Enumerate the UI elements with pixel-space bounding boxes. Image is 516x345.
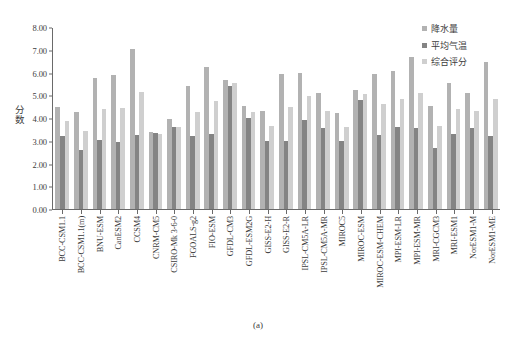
y-tick-mark xyxy=(49,96,52,97)
bar-group[interactable] xyxy=(295,28,314,209)
bar-group[interactable] xyxy=(53,28,72,209)
bar-group[interactable] xyxy=(332,28,351,209)
x-tick-mark xyxy=(398,210,399,214)
x-label-cell: CNRM-CM5 xyxy=(146,216,165,312)
x-label-cell: MIROC5 xyxy=(333,216,352,312)
x-label-cell: CCSM4 xyxy=(128,216,147,312)
bar-group[interactable] xyxy=(239,28,258,209)
bar-group[interactable] xyxy=(90,28,109,209)
x-tick-mark xyxy=(361,210,362,214)
bar[interactable] xyxy=(158,134,163,209)
bar-group[interactable] xyxy=(72,28,91,209)
x-tick-label: IPSL-CM5A-MR xyxy=(319,216,328,273)
legend-item[interactable]: 平均气温 xyxy=(422,39,467,52)
bar-group[interactable] xyxy=(109,28,128,209)
x-label-cell: NorESM1-ME xyxy=(482,216,501,312)
x-tick-mark xyxy=(454,210,455,214)
bar-group[interactable] xyxy=(165,28,184,209)
x-label-cell: GFDL-ESM2G xyxy=(240,216,259,312)
bar[interactable] xyxy=(307,96,312,209)
x-label-cell: MRI-CGCM3 xyxy=(426,216,445,312)
x-tick-mark xyxy=(62,210,63,214)
x-tick-label: GFDL-CM3 xyxy=(226,216,235,256)
bar-group[interactable] xyxy=(314,28,333,209)
x-label-cell: BCC-CSM1.1 xyxy=(53,216,72,312)
x-label-cell: GISS-E2-R xyxy=(277,216,296,312)
x-tick-mark xyxy=(342,210,343,214)
bar[interactable] xyxy=(437,126,442,209)
x-tick-label: BNU-ESM xyxy=(95,216,104,252)
bar[interactable] xyxy=(456,109,461,209)
bar[interactable] xyxy=(65,121,70,209)
bar[interactable] xyxy=(325,111,330,209)
bar[interactable] xyxy=(176,127,181,209)
bar[interactable] xyxy=(288,107,293,209)
bar[interactable] xyxy=(83,131,88,209)
bar-group[interactable] xyxy=(221,28,240,209)
y-tick-mark xyxy=(49,50,52,51)
x-tick-mark xyxy=(100,210,101,214)
x-label-cell: CanESM2 xyxy=(109,216,128,312)
x-tick-mark xyxy=(193,210,194,214)
bar[interactable] xyxy=(195,112,200,209)
x-tick-label: FIO-ESM xyxy=(207,216,216,248)
x-tick-mark xyxy=(305,210,306,214)
bar[interactable] xyxy=(474,111,479,209)
x-axis-labels: BCC-CSM1.1BCC-CSM1.1(m)BNU-ESMCanESM2CCS… xyxy=(53,216,501,312)
bar-group[interactable] xyxy=(183,28,202,209)
legend-swatch-icon xyxy=(422,43,427,48)
y-tick-mark xyxy=(49,141,52,142)
bar[interactable] xyxy=(363,94,368,209)
y-tick-mark xyxy=(49,187,52,188)
x-tick-label: MIROC-ESM xyxy=(357,216,366,262)
y-tick-mark xyxy=(49,210,52,211)
bar[interactable] xyxy=(344,127,349,209)
bar[interactable] xyxy=(232,83,237,209)
bar[interactable] xyxy=(381,104,386,209)
x-label-cell: FGOALS-g2 xyxy=(184,216,203,312)
x-tick-mark xyxy=(81,210,82,214)
x-tick-label: MRI-ESM1 xyxy=(450,216,459,254)
bar-group[interactable] xyxy=(146,28,165,209)
x-label-cell: MIROC-ESM xyxy=(352,216,371,312)
x-tick-label: GFDL-ESM2G xyxy=(245,216,254,266)
bar[interactable] xyxy=(120,108,125,209)
bar[interactable] xyxy=(251,112,256,209)
bar-group[interactable] xyxy=(388,28,407,209)
x-tick-mark xyxy=(417,210,418,214)
x-label-cell: CSIRO-Mk 3-6-0 xyxy=(165,216,184,312)
x-label-cell: MIROC-ESM-CHEM xyxy=(370,216,389,312)
bar[interactable] xyxy=(400,99,405,209)
x-tick-label: BCC-CSM1.1 xyxy=(58,216,67,262)
legend-item[interactable]: 降水量 xyxy=(422,22,467,35)
y-tick-mark xyxy=(49,73,52,74)
bar-group[interactable] xyxy=(202,28,221,209)
legend-item-label: 降水量 xyxy=(431,22,458,35)
legend-item-label: 平均气温 xyxy=(431,39,467,52)
x-label-cell: FIO-ESM xyxy=(202,216,221,312)
figure-caption: (a) xyxy=(0,320,516,330)
y-axis-label: 分数 xyxy=(12,105,26,125)
x-tick-mark xyxy=(436,210,437,214)
bar-group[interactable] xyxy=(481,28,500,209)
bar[interactable] xyxy=(214,101,219,209)
bar-group[interactable] xyxy=(370,28,389,209)
x-tick-label: MIROC-ESM-CHEM xyxy=(375,216,384,288)
bar[interactable] xyxy=(139,92,144,209)
bar-group[interactable] xyxy=(258,28,277,209)
x-label-cell: GFDL-CM3 xyxy=(221,216,240,312)
x-tick-label: NorESM1-M xyxy=(469,216,478,259)
legend-item-label: 综合评分 xyxy=(431,55,467,68)
legend-item[interactable]: 综合评分 xyxy=(422,55,467,68)
bar-group[interactable] xyxy=(351,28,370,209)
bar[interactable] xyxy=(102,109,107,209)
x-tick-mark xyxy=(212,210,213,214)
legend-swatch-icon xyxy=(422,26,427,31)
bar-group[interactable] xyxy=(277,28,296,209)
x-tick-label: FGOALS-g2 xyxy=(189,216,198,258)
bar[interactable] xyxy=(493,99,498,209)
x-tick-mark xyxy=(380,210,381,214)
bar-group[interactable] xyxy=(128,28,147,209)
bar[interactable] xyxy=(269,126,274,209)
bar[interactable] xyxy=(418,93,423,209)
